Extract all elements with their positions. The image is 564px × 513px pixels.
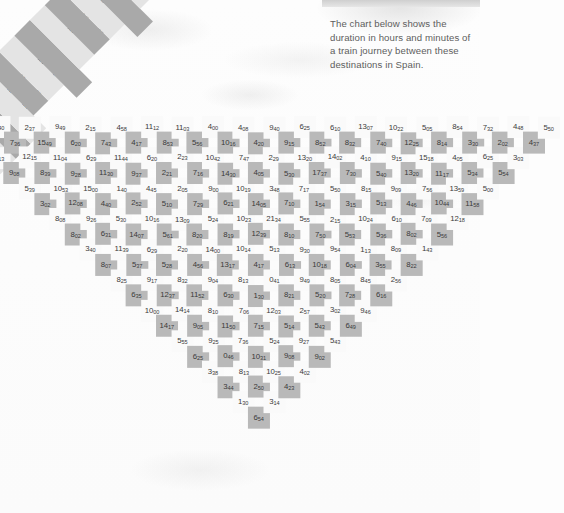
- duration-cell: 550: [538, 116, 560, 138]
- duration-matrix: Alicante (Terminal)Barcelona (Sants)Bilb…: [0, 0, 564, 433]
